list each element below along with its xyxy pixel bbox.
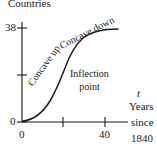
inflection-line-1: Inflection: [70, 68, 109, 81]
y-tick-label-0: 0: [10, 116, 16, 127]
x-axis-title-years: Years: [129, 101, 154, 112]
concavity-inflection-figure: Countries 38 0 0 40 t Years since 1840 C…: [0, 0, 157, 151]
inflection-line-2: point: [70, 81, 109, 94]
x-tick-label-40: 40: [99, 129, 110, 140]
x-axis-title-1840: 1840: [131, 133, 153, 144]
x-axis-variable: t: [137, 88, 140, 99]
y-tick-label-38: 38: [5, 22, 16, 33]
x-tick-label-0: 0: [19, 129, 25, 140]
annotation-inflection-point: Inflection point: [70, 68, 109, 93]
y-axis-title: Countries: [8, 0, 51, 9]
x-axis-title-since: since: [131, 117, 154, 128]
